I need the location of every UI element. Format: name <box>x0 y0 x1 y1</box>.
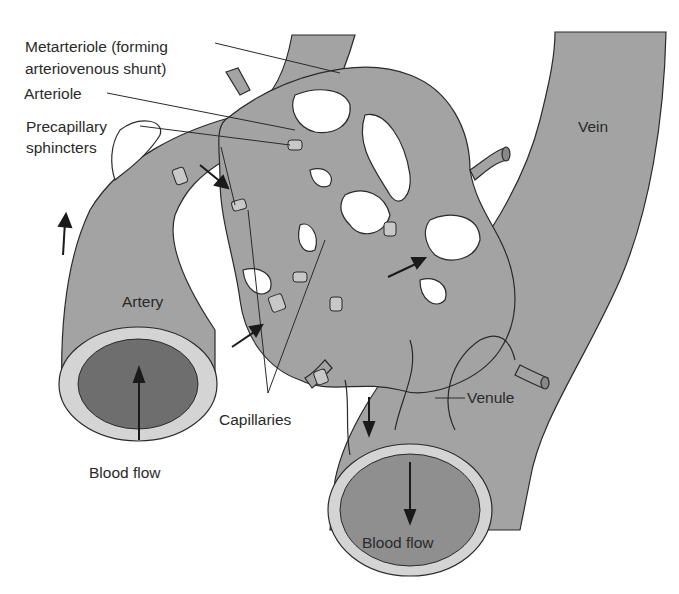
arteriole-label: Arteriole <box>24 84 82 103</box>
venule-label: Venule <box>467 388 514 407</box>
capillaries-label: Capillaries <box>219 410 291 429</box>
vein-label: Vein <box>578 117 608 136</box>
diagram-artwork <box>0 0 679 594</box>
artery-label: Artery <box>122 292 163 311</box>
vein-blood-flow-label: Blood flow <box>362 533 434 552</box>
metarteriole-label-line1: Metarteriole (forming <box>25 37 168 56</box>
artery-blood-flow-label: Blood flow <box>89 463 161 482</box>
metarteriole-label-line2: arteriovenous shunt) <box>25 59 166 78</box>
microcirculation-diagram: Metarteriole (forming arteriovenous shun… <box>0 0 679 594</box>
precapillary-label-line1: Precapillary <box>26 117 107 136</box>
precapillary-label-line2: sphincters <box>26 138 97 157</box>
